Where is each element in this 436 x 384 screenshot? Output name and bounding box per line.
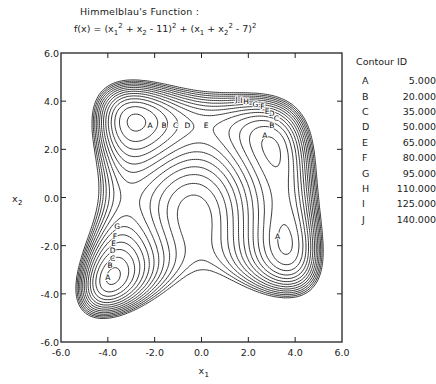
legend-id: D — [356, 121, 380, 132]
x-tick-label: -6.0 — [52, 347, 71, 358]
legend-value: 80.000 — [380, 152, 436, 163]
contour-id-label: A — [275, 232, 281, 241]
legend-id: H — [356, 183, 380, 194]
legend-id: I — [356, 198, 380, 209]
legend-value: 65.000 — [380, 137, 436, 148]
legend-id: F — [356, 152, 380, 163]
y-tick-label: 0.0 — [44, 193, 59, 204]
contour-id-label: G — [114, 222, 120, 231]
x-tick-label: -2.0 — [145, 347, 164, 358]
x-tick-label: 2.0 — [241, 347, 256, 358]
svg-text:1: 1 — [205, 371, 209, 379]
legend-item: E65.000 — [356, 135, 436, 150]
contour-id-label: A — [105, 273, 111, 282]
contour-id-label: E — [265, 107, 270, 116]
contour-id-label: J — [235, 95, 238, 104]
contour-id-label: D — [269, 109, 275, 118]
y-tick-label: -4.0 — [40, 289, 59, 300]
legend: Contour ID A5.000B20.000C35.000D50.000E6… — [356, 56, 436, 227]
legend-item: F80.000 — [356, 150, 436, 165]
contour-id-label: B — [161, 121, 166, 130]
legend-value: 20.000 — [380, 91, 436, 102]
x-tick-label: -4.0 — [99, 347, 118, 358]
x-tick-label: 6.0 — [334, 347, 349, 358]
contour-lines — [76, 80, 323, 319]
contour-id-label: F — [113, 232, 117, 241]
contour-id-label: I — [240, 96, 242, 105]
legend-id: E — [356, 137, 380, 148]
contour-id-label: G — [252, 100, 258, 109]
legend-item: G95.000 — [356, 165, 436, 180]
legend-item: C35.000 — [356, 104, 436, 119]
legend-item: B20.000 — [356, 88, 436, 103]
y-tick-label: 4.0 — [44, 96, 59, 107]
x-tick-label: 0.0 — [194, 347, 209, 358]
y-tick-label: 6.0 — [44, 48, 59, 59]
legend-value: 95.000 — [380, 168, 436, 179]
y-tick-label: -2.0 — [40, 241, 59, 252]
x-tick-label: 4.0 — [288, 347, 303, 358]
legend-value: 140.000 — [380, 214, 436, 225]
legend-item: A5.000 — [356, 73, 436, 88]
legend-value: 50.000 — [380, 121, 436, 132]
legend-value: 110.000 — [380, 183, 436, 194]
contour-id-label: E — [204, 121, 209, 130]
contour-id-label: A — [262, 131, 268, 140]
svg-text:2: 2 — [18, 199, 22, 207]
legend-value: 125.000 — [380, 198, 436, 209]
legend-item: D50.000 — [356, 119, 436, 134]
legend-value: 5.000 — [380, 75, 436, 86]
contour-id-label: D — [185, 121, 191, 130]
legend-id: C — [356, 106, 380, 117]
contour-id-label: C — [173, 121, 178, 130]
legend-item: J140.000 — [356, 212, 436, 227]
legend-item: H110.000 — [356, 181, 436, 196]
legend-id: J — [356, 214, 380, 225]
legend-item: I125.000 — [356, 196, 436, 211]
y-tick-label: -6.0 — [40, 337, 59, 348]
legend-id: A — [356, 75, 380, 86]
legend-value: 35.000 — [380, 106, 436, 117]
legend-id: B — [356, 91, 380, 102]
contour-id-label: A — [147, 121, 153, 130]
contour-id-label: F — [260, 102, 264, 111]
contour-id-label: H — [243, 97, 249, 106]
legend-id: G — [356, 168, 380, 179]
legend-title: Contour ID — [356, 56, 436, 67]
y-tick-label: 2.0 — [44, 144, 59, 155]
